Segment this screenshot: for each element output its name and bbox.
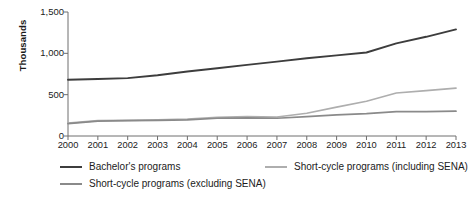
legend-item-bachelors: Bachelor's programs xyxy=(60,162,180,172)
legend-label: Short-cycle programs (excluding SENA) xyxy=(89,179,266,189)
legend-item-short-cycle-including-sena: Short-cycle programs (including SENA) xyxy=(265,162,468,172)
line-chart: Thousands 05001,0001,500 200020012002200… xyxy=(0,0,472,199)
y-axis-ticks xyxy=(64,12,68,136)
legend-item-short-cycle-excluding-sena: Short-cycle programs (excluding SENA) xyxy=(60,179,266,189)
y-tick-label: 500 xyxy=(28,90,64,100)
plot-svg xyxy=(68,12,456,136)
x-axis-tick-labels: 2000200120022003200420052006200720082009… xyxy=(68,141,456,155)
chart-legend: Bachelor's programs Short-cycle programs… xyxy=(0,160,472,196)
series-line xyxy=(68,29,456,79)
legend-label: Short-cycle programs (including SENA) xyxy=(294,162,468,172)
x-tick-label: 2013 xyxy=(436,141,472,150)
y-tick-label: 1,000 xyxy=(28,48,64,58)
legend-label: Bachelor's programs xyxy=(89,162,180,172)
plot-area xyxy=(68,12,456,136)
legend-swatch-icon xyxy=(60,166,82,168)
legend-swatch-icon xyxy=(60,183,82,185)
y-tick-label: 1,500 xyxy=(28,7,64,17)
series-line xyxy=(68,111,456,123)
legend-swatch-icon xyxy=(265,166,287,168)
series-lines xyxy=(68,29,456,123)
